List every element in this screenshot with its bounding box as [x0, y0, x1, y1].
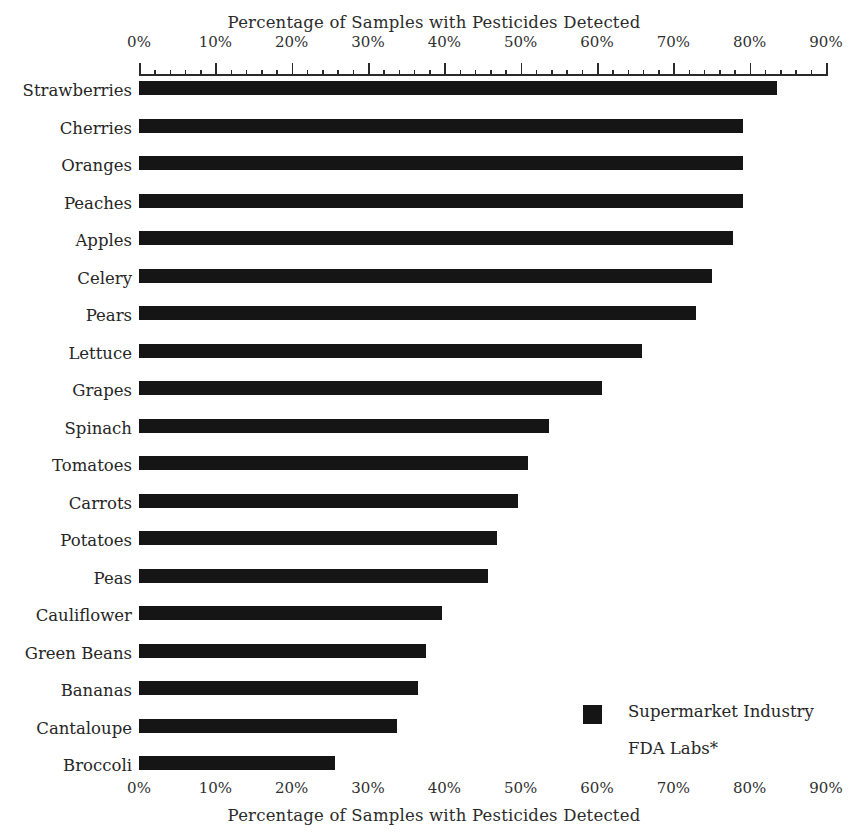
category-label: Cherries: [60, 119, 132, 138]
chart-row: Lettuce: [0, 342, 868, 380]
bar-supermarket-industry: [139, 344, 642, 358]
chart-legend: Supermarket IndustryFDA Labs*: [583, 700, 853, 774]
chart-title-bottom: Percentage of Samples with Pesticides De…: [0, 806, 868, 825]
bar-supermarket-industry: [139, 456, 528, 470]
pesticide-bar-chart: Percentage of Samples with Pesticides De…: [0, 0, 868, 837]
category-label: Bananas: [61, 681, 132, 700]
category-label: Peas: [94, 569, 132, 588]
category-label: Green Beans: [25, 644, 132, 663]
category-label: Cauliflower: [36, 606, 132, 625]
category-label: Potatoes: [60, 531, 132, 550]
x-tick-label: 20%: [275, 779, 308, 797]
chart-row: Peaches: [0, 192, 868, 230]
chart-row: Apples: [0, 229, 868, 267]
bar-supermarket-industry: [139, 756, 335, 770]
bar-supermarket-industry: [139, 81, 777, 95]
category-label: Spinach: [65, 419, 132, 438]
x-tick-label: 80%: [733, 779, 766, 797]
bar-supermarket-industry: [139, 381, 602, 395]
bar-supermarket-industry: [139, 156, 743, 170]
bar-supermarket-industry: [139, 494, 518, 508]
x-tick-label: 10%: [199, 779, 232, 797]
bar-supermarket-industry: [139, 644, 426, 658]
legend-swatch-icon: [583, 742, 602, 761]
chart-row: Potatoes: [0, 529, 868, 567]
category-label: Apples: [75, 231, 132, 250]
legend-item: FDA Labs*: [583, 737, 853, 774]
chart-row: Grapes: [0, 379, 868, 417]
category-label: Grapes: [72, 381, 132, 400]
chart-row: Tomatoes: [0, 454, 868, 492]
bar-supermarket-industry: [139, 419, 549, 433]
bar-supermarket-industry: [139, 194, 743, 208]
category-label: Celery: [77, 269, 132, 288]
category-label: Broccoli: [63, 756, 132, 775]
legend-swatch-icon: [583, 705, 602, 724]
bar-supermarket-industry: [139, 606, 442, 620]
bar-supermarket-industry: [139, 681, 418, 695]
category-label: Peaches: [64, 194, 132, 213]
chart-row: Green Beans: [0, 642, 868, 680]
category-label: Oranges: [61, 156, 132, 175]
x-tick-label: 90%: [809, 779, 842, 797]
bar-supermarket-industry: [139, 569, 488, 583]
category-label: Lettuce: [68, 344, 132, 363]
chart-row: Peas: [0, 567, 868, 605]
chart-row: Spinach: [0, 417, 868, 455]
legend-label: Supermarket Industry: [628, 702, 814, 721]
x-tick-label: 0%: [127, 779, 151, 797]
x-axis-tick-labels-bottom: 0%10%20%30%40%50%60%70%80%90%: [0, 779, 868, 801]
bar-supermarket-industry: [139, 119, 743, 133]
x-tick-label: 70%: [657, 779, 690, 797]
chart-row: Carrots: [0, 492, 868, 530]
bar-supermarket-industry: [139, 531, 497, 545]
category-label: Tomatoes: [52, 456, 132, 475]
bar-supermarket-industry: [139, 231, 733, 245]
bar-supermarket-industry: [139, 269, 712, 283]
x-tick-label: 40%: [428, 779, 461, 797]
chart-row: Cherries: [0, 117, 868, 155]
legend-item: Supermarket Industry: [583, 700, 853, 737]
x-tick-label: 30%: [351, 779, 384, 797]
chart-row: Strawberries: [0, 79, 868, 117]
legend-label: FDA Labs*: [628, 739, 718, 758]
category-label: Carrots: [69, 494, 132, 513]
x-tick-label: 60%: [580, 779, 613, 797]
bar-supermarket-industry: [139, 306, 696, 320]
chart-row: Cauliflower: [0, 604, 868, 642]
x-tick-label: 50%: [504, 779, 537, 797]
category-label: Pears: [86, 306, 132, 325]
bar-supermarket-industry: [139, 719, 397, 733]
chart-row: Pears: [0, 304, 868, 342]
category-label: Strawberries: [23, 81, 132, 100]
category-label: Cantaloupe: [36, 719, 132, 738]
chart-row: Oranges: [0, 154, 868, 192]
chart-row: Celery: [0, 267, 868, 305]
